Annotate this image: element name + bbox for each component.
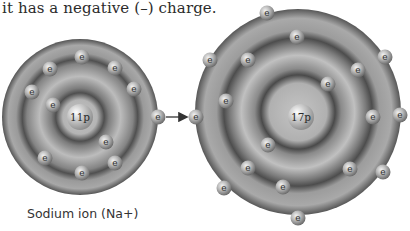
electron: e (151, 110, 166, 125)
electron-label: e (79, 168, 84, 178)
electron-label: e (47, 64, 52, 74)
electron-label: e (325, 79, 330, 89)
electron-label: e (29, 87, 34, 97)
electron-label: e (397, 110, 402, 120)
electron-label: e (112, 158, 117, 168)
electron: e (321, 77, 336, 92)
electron-label: e (245, 163, 250, 173)
electron: e (351, 63, 366, 78)
electron: e (260, 6, 275, 21)
electron: e (25, 85, 40, 100)
electron: e (203, 53, 218, 68)
electron: e (99, 135, 114, 150)
electron: e (241, 161, 256, 176)
electron-label: e (103, 137, 108, 147)
electron-label: e (280, 182, 285, 192)
electron-label: e (42, 153, 47, 163)
electron-label: e (382, 52, 387, 62)
chlorine-nucleus-label: 17p (291, 111, 311, 123)
electron-label: e (221, 183, 226, 193)
electron: e (291, 211, 306, 226)
electron-label: e (264, 8, 269, 18)
electron-label: e (294, 32, 299, 42)
electron: e (366, 110, 381, 125)
electron: e (376, 165, 391, 180)
electron-label: e (355, 65, 360, 75)
electron: e (75, 50, 90, 65)
sodium-atom: 11p eeeeeeeeee (2, 39, 158, 195)
electron: e (290, 30, 305, 45)
electron-label: e (155, 112, 160, 122)
electron: e (38, 151, 53, 166)
electron: e (43, 62, 58, 77)
electron: e (189, 110, 204, 125)
electron: e (393, 108, 408, 123)
electron-label: e (370, 112, 375, 122)
electron-label: e (223, 96, 228, 106)
electron-label: e (112, 63, 117, 73)
electron-label: e (347, 164, 352, 174)
electron: e (75, 166, 90, 181)
electron: e (241, 53, 256, 68)
electron-label: e (380, 167, 385, 177)
electron-label: e (50, 100, 55, 110)
electron-label: e (207, 55, 212, 65)
electron: e (219, 94, 234, 109)
electron: e (343, 162, 358, 177)
electron-label: e (193, 112, 198, 122)
electron: e (127, 82, 142, 97)
sodium-ion-label: Sodium ion (Na+) (27, 206, 138, 221)
electron-label: e (295, 213, 300, 223)
electron: e (217, 181, 232, 196)
sodium-nucleus-label: 11p (70, 111, 90, 123)
transferring-electron: e (151, 110, 166, 125)
electron: e (378, 50, 393, 65)
electron: e (261, 138, 276, 153)
ionic-bond-diagram: 11p eeeeeeeeee 17p eeeeeeeeeeeeeeeeee e (0, 0, 410, 231)
chlorine-atom: 17p eeeeeeeeeeeeeeeeee (189, 6, 408, 226)
electron-label: e (265, 140, 270, 150)
electron-label: e (79, 52, 84, 62)
electron-label: e (245, 55, 250, 65)
electron: e (46, 98, 61, 113)
electron: e (108, 61, 123, 76)
electron: e (108, 156, 123, 171)
electron: e (276, 180, 291, 195)
electron-label: e (131, 84, 136, 94)
